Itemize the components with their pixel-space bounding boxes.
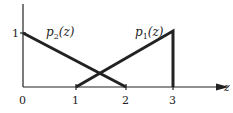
x-tick-label-3: 3	[169, 94, 176, 107]
p1-label: p1(z)	[135, 25, 164, 41]
y-tick-label-1: 1	[12, 27, 19, 40]
x-axis-label: z	[223, 81, 230, 94]
x-origin-label: 0	[19, 94, 26, 107]
x-tick-label-2: 2	[122, 94, 129, 107]
p2-line	[23, 33, 126, 87]
x-tick-label-1: 1	[72, 94, 79, 107]
density-plot: 1 0 1 2 3 z p2(z) p1(z)	[0, 0, 233, 113]
p1-line	[76, 31, 173, 87]
p2-label: p2(z)	[46, 25, 75, 41]
